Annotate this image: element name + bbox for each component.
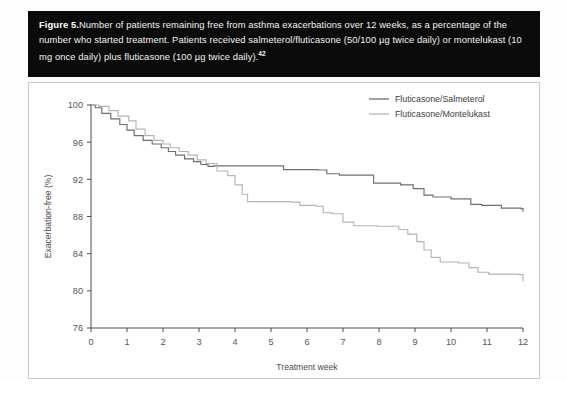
y-axis-title: Exacerbation-free (%) [43,175,53,259]
legend-label-salmeterol: Fluticasone/Salmeterol [395,94,485,104]
y-tick-label: 80 [73,286,83,296]
x-tick-label: 7 [340,337,345,347]
x-tick-label: 8 [376,337,381,347]
x-tick-label: 12 [518,337,528,347]
figure-caption-band: Figure 5.Number of patients remaining fr… [28,11,540,77]
legend-label-montelukast: Fluticasone/Montelukast [395,109,490,119]
plot-panel: 7680848892961000123456789101112Treatment… [28,82,540,379]
x-tick-label: 2 [160,337,165,347]
y-tick-label: 76 [73,323,83,333]
x-tick-label: 0 [88,337,93,347]
x-tick-label: 10 [446,337,456,347]
y-tick-label: 88 [73,212,83,222]
x-tick-label: 5 [268,337,273,347]
x-tick-label: 6 [304,337,309,347]
chart-legend: Fluticasone/SalmeterolFluticasone/Montel… [369,94,490,119]
x-tick-label: 9 [412,337,417,347]
figure-caption-text: Figure 5.Number of patients remaining fr… [39,18,529,65]
figure-number-label: Figure 5. [39,19,79,30]
series-line-montelukast [91,105,523,282]
figure-caption-body: Number of patients remaining free from a… [39,19,522,62]
x-tick-label: 1 [124,337,129,347]
y-tick-label: 84 [73,249,83,259]
x-tick-label: 11 [482,337,492,347]
chart-svg: 7680848892961000123456789101112Treatment… [29,83,539,378]
y-tick-label: 92 [73,175,83,185]
figure-container: Figure 5.Number of patients remaining fr… [0,0,567,395]
x-tick-label: 4 [232,337,237,347]
figure-reference-superscript: 42 [258,50,266,57]
chart-axes: 7680848892961000123456789101112Treatment… [43,100,528,372]
y-tick-label: 100 [68,100,83,110]
series-line-salmeterol [91,105,523,212]
x-tick-label: 3 [196,337,201,347]
chart-series-group [91,105,523,282]
y-tick-label: 96 [73,138,83,148]
figure-bottom-strip [0,379,567,395]
x-axis-title: Treatment week [276,362,338,372]
